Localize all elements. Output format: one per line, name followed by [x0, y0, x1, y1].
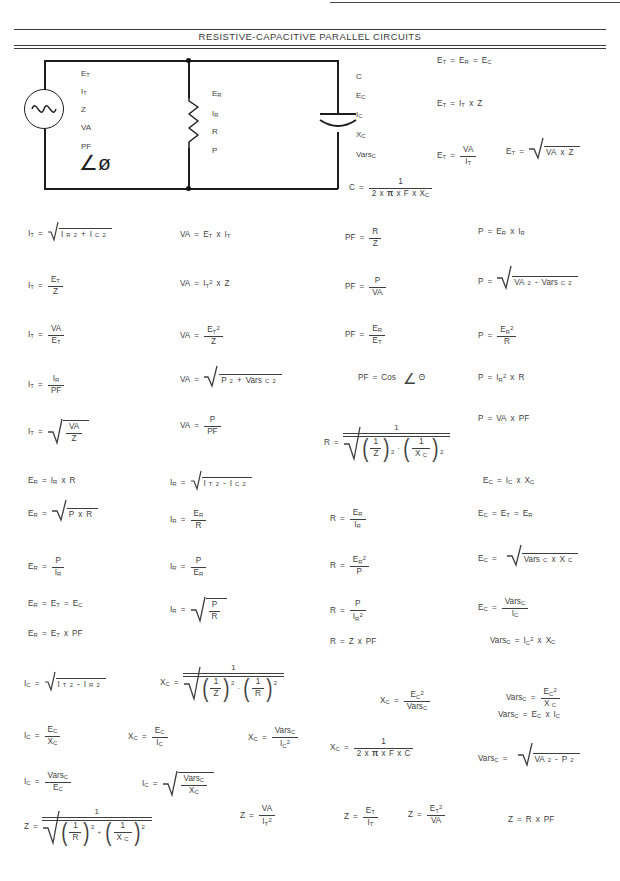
formula-ir-2: IR= ERR	[170, 510, 207, 530]
formula-er-5: ER=ETxPF	[28, 630, 83, 639]
formula-ec-3: EC= VarsC x XC	[478, 553, 579, 566]
formula-va-3: VA= ET2Z	[180, 325, 224, 347]
formula-ic-5: IC= VarsCXC	[142, 772, 215, 796]
circuit-label-c: C	[356, 72, 362, 81]
wire-left-upper	[44, 60, 46, 90]
formula-z-2: Z= VAIT2	[240, 805, 276, 827]
formula-varsc-0: VarsC=IC2xXC	[490, 636, 556, 646]
formula-et-2: ET=ITxZ	[437, 100, 482, 109]
header-rule-top	[14, 29, 606, 30]
formula-p-4: P=IR2xR	[478, 373, 524, 383]
formula-it-3: IT= VAET	[28, 325, 65, 345]
formula-ec-1: EC=ICxXC	[483, 477, 535, 486]
formula-it-1: IT= IR2 + IC2	[28, 228, 113, 241]
resistor-symbol	[186, 97, 202, 153]
circuit-label-et: ET	[81, 69, 90, 78]
formula-ir-4: IR= PR	[170, 598, 228, 622]
formula-ic-1: IC= IT2 - IR2	[24, 678, 107, 691]
circuit-label-ec: EC	[356, 91, 366, 100]
wire-right-upper	[337, 60, 339, 113]
circuit-label-ir: IR	[212, 109, 219, 118]
formula-varsc-3: VarsC= VA2 - P2	[478, 753, 581, 766]
circuit-label-it: IT	[81, 87, 87, 96]
circuit-label-varsc: VarsC	[356, 150, 376, 159]
formula-et-4: ET= VA x Z	[506, 146, 581, 159]
formula-varsc-1: VarsC= EC2X C	[506, 687, 561, 709]
formula-va-4: VA= P2 + VarsC2	[180, 374, 283, 387]
phase-angle-symbol: ∠ø	[79, 152, 111, 173]
formula-va-2: VA=IT2xZ	[180, 279, 230, 289]
wire-mid-upper	[188, 60, 190, 98]
formula-ec-2: EC=ET=ER	[478, 510, 533, 519]
ac-source-symbol	[24, 89, 64, 129]
capacitor-plate-top	[320, 113, 356, 115]
formula-ic-3: IC= VarsCEC	[24, 772, 72, 792]
formula-p-2: P= VA2 - VarsC2	[478, 276, 579, 289]
wire-left-lower	[44, 129, 46, 189]
wire-top	[44, 60, 338, 62]
formula-er-4: ER=ET=EC	[28, 600, 83, 609]
formula-z-3: Z= ETIT	[344, 807, 379, 827]
formula-z-5: Z=RxPF	[508, 816, 554, 825]
formula-ir-1: IR= IT2 - IC2	[170, 477, 253, 490]
formula-r-2: R= ERIR	[330, 509, 367, 529]
formula-p-3: P= ER2R	[478, 325, 517, 347]
page-top-rule	[330, 2, 620, 3]
formula-ir-3: IR= PER	[170, 557, 207, 577]
formula-z-4: Z= ET2VA	[408, 804, 446, 826]
circuit-label-pf: PF	[81, 142, 91, 151]
formula-er-1: ER=IRxR	[28, 477, 76, 486]
formula-r-1: R= 1 ( 1Z )2 - ( 1X C )2	[324, 424, 450, 462]
formula-p-5: P=VAxPF	[478, 415, 529, 424]
formula-xc-2: XC= ECIC	[128, 727, 169, 747]
circuit-label-xc: XC	[356, 130, 366, 139]
formula-z-1: Z= 1 ( 1R )2 + ( 1X C )2	[24, 808, 152, 846]
formula-capacitance: C= 1 2 x π x F x XC	[349, 178, 433, 198]
formula-it-5: IT= VAZ	[28, 420, 90, 444]
header-rule-mid	[14, 45, 606, 46]
formula-xc-5: XC= 1 2 x π x F x C	[330, 738, 414, 758]
circuit-label-er: ER	[212, 89, 222, 98]
formula-r-3: R= ER2P	[330, 555, 370, 577]
wire-right-lower	[337, 132, 339, 189]
formula-pf-3: PF= ERET	[345, 325, 386, 345]
formula-pf-4: PF=Cos ∠Θ	[358, 371, 425, 386]
formula-xc-1: XC= 1 ( 1Z )2 - ( 1R )2	[160, 664, 284, 702]
formula-er-3: ER= PIR	[28, 557, 65, 577]
circuit-label-r: R	[212, 127, 218, 136]
formula-er-2: ER= P x R	[28, 508, 99, 521]
circuit-diagram: ET IT Z VA PF ∠ø ER IR R P C EC IC XC Va…	[0, 52, 360, 197]
formula-pf-1: PF= RZ	[345, 228, 382, 248]
formula-pf-2: PF= PVA	[345, 277, 387, 297]
junction-dot-bottom	[186, 186, 191, 191]
circuit-label-z: Z	[81, 105, 86, 114]
formula-it-2: IT= ETZ	[28, 276, 64, 296]
formula-ic-2: IC= ECXC	[24, 726, 61, 746]
formula-r-5: R=ZxPF	[330, 638, 376, 647]
formula-et-1: ET=ER=EC	[437, 57, 492, 66]
circuit-label-va: VA	[81, 123, 91, 132]
junction-dot-top	[186, 58, 191, 63]
formula-it-4: IT= IRPF	[28, 375, 65, 395]
capacitor-plate-curved	[319, 118, 357, 136]
page-title: RESISTIVE-CAPACITIVE PARALLEL CIRCUITS	[0, 31, 620, 42]
header-rule-bottom	[14, 48, 606, 49]
circuit-label-p: P	[212, 146, 217, 155]
formula-va-1: VA=ETxIT	[180, 231, 231, 240]
wire-bottom	[44, 188, 338, 190]
formula-r-4: R= PIR2	[330, 600, 367, 622]
wire-mid-lower	[188, 148, 190, 189]
formula-xc-3: XC= VarsCIC2	[248, 727, 299, 749]
formula-xc-4: XC= EC2VarsC	[380, 690, 431, 712]
formula-ec-4: EC= VarsCIC	[478, 598, 529, 618]
formula-et-3: ET= VAIT	[437, 146, 477, 166]
formula-va-5: VA= PPF	[180, 416, 222, 436]
formula-varsc-2: VarsC=ECxIC	[498, 711, 560, 720]
formula-p-1: P=ERxIR	[478, 228, 525, 237]
circuit-label-ic: IC	[356, 110, 363, 119]
